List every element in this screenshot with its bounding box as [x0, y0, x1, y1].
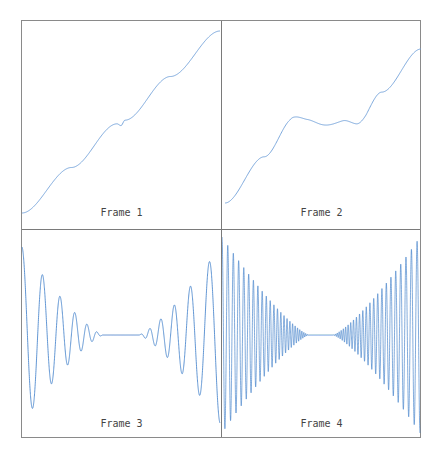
- frame-2-curve: [225, 49, 421, 203]
- frames-grid: Frame 1 Frame 2 Frame 3 Frame 4: [21, 20, 421, 438]
- frame-3-label: Frame 3: [22, 418, 221, 429]
- frame-2-plot: [222, 21, 421, 229]
- frame-1-plot: [22, 21, 221, 229]
- frame-4-label: Frame 4: [222, 418, 421, 429]
- frame-2-panel: Frame 2: [222, 21, 421, 229]
- frame-4-curve: [222, 237, 420, 433]
- frame-4-panel: Frame 4: [222, 230, 421, 438]
- frame-1-panel: Frame 1: [22, 21, 221, 229]
- frame-1-label: Frame 1: [22, 207, 221, 218]
- frame-1-curve: [22, 31, 220, 213]
- frame-2-label: Frame 2: [222, 207, 421, 218]
- frame-3-panel: Frame 3: [22, 230, 221, 438]
- frame-3-plot: [22, 230, 221, 438]
- frame-3-curve: [22, 247, 220, 423]
- horizontal-divider: [22, 229, 420, 230]
- frame-4-plot: [222, 230, 421, 438]
